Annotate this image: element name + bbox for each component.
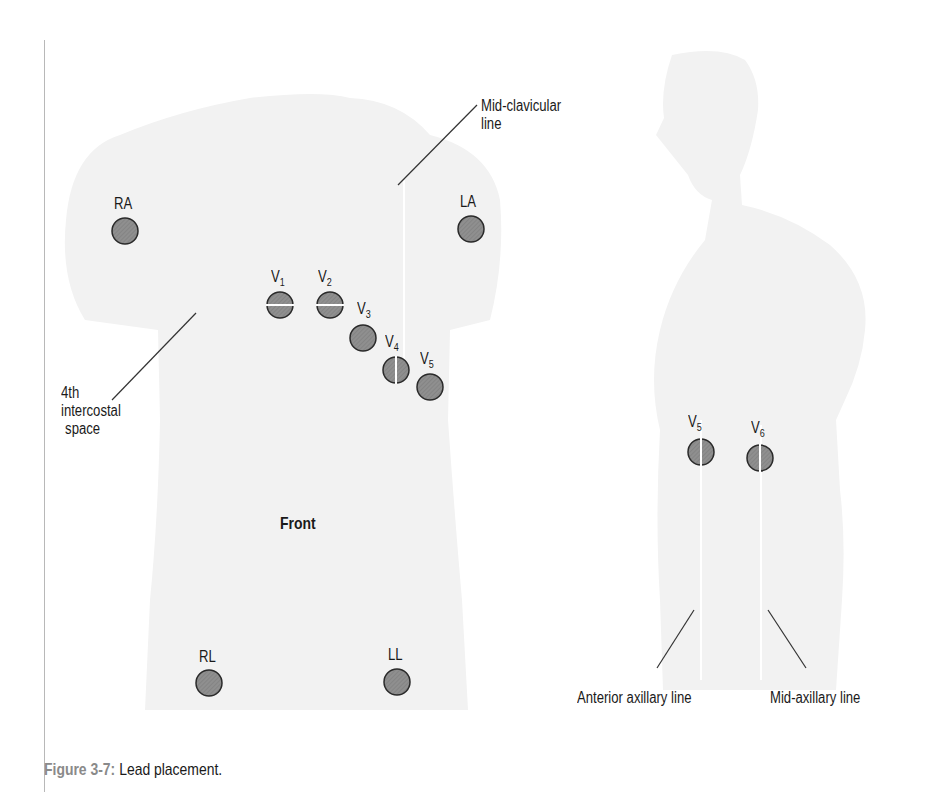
electrode-ll — [384, 669, 410, 695]
label-v2: V2 — [318, 268, 332, 291]
electrode-rl — [196, 670, 222, 696]
anterior-axillary-label: Anterior axillary line — [577, 689, 691, 707]
label-v5: V5 — [420, 350, 434, 373]
label-ra: RA — [114, 195, 132, 213]
label-side-v5: V5 — [688, 413, 702, 436]
label-side-v6: V6 — [751, 419, 765, 442]
side-profile-silhouette — [654, 51, 866, 690]
label-rl: RL — [199, 648, 216, 666]
electrode-la — [458, 216, 484, 242]
label-la: LA — [460, 193, 476, 211]
label-ll: LL — [388, 646, 403, 664]
electrode-v5 — [417, 374, 443, 400]
mid-axillary-label: Mid-axillary line — [770, 689, 860, 707]
figure-caption: Figure 3-7: Lead placement. — [44, 760, 222, 780]
electrode-v3 — [350, 325, 376, 351]
front-torso-silhouette — [65, 94, 501, 710]
lead-placement-diagram — [0, 0, 945, 792]
figure-number: Figure 3-7: — [44, 760, 115, 779]
intercostal-label: 4th intercostal space — [61, 384, 121, 438]
mid-clavicular-label: Mid-clavicular line — [481, 97, 561, 133]
front-title: Front — [280, 515, 316, 533]
label-v3: V3 — [357, 300, 371, 323]
electrode-ra — [112, 218, 138, 244]
label-v1: V1 — [271, 268, 285, 291]
figure-caption-text: Lead placement. — [115, 760, 222, 779]
label-v4: V4 — [385, 333, 399, 356]
